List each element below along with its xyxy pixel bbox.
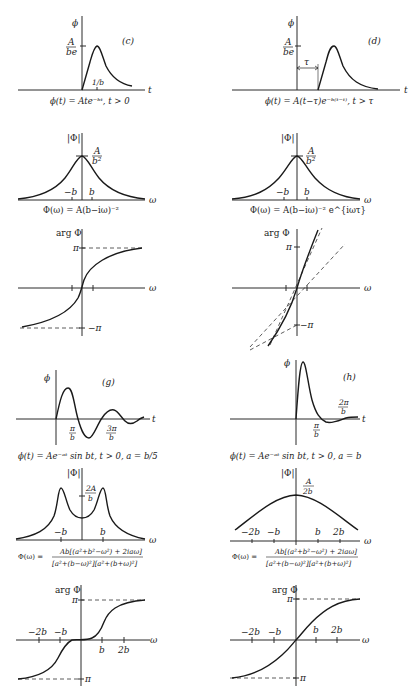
peak-label-den: b² <box>306 156 316 166</box>
caption: Φ(ω) = A(b−iω)⁻² <box>43 205 119 215</box>
y-axis-label: ϕ <box>44 373 50 383</box>
tick-b: b <box>315 527 321 537</box>
tick-label: 1/b <box>92 78 104 87</box>
x-axis-label: ω <box>364 195 372 205</box>
tick2-den: b <box>341 407 346 416</box>
mark-den: b <box>88 494 93 503</box>
tick1-num: π <box>313 421 320 430</box>
tick1-den: b <box>314 430 319 439</box>
caption: ϕ(t) = Ae⁻ᵃᵗ sin bt, t > 0, a = b/5 <box>18 451 158 461</box>
tick-neg-2b: −2b <box>28 627 47 637</box>
peak-label-num: A <box>67 37 75 47</box>
x-axis-label: ω <box>149 195 157 205</box>
tick-2b: 2b <box>330 625 343 635</box>
tick-neg-2b: −2b <box>241 627 260 637</box>
peak-label-num: A <box>307 146 315 156</box>
panel-c-phase: arg Φ ω π −π <box>18 228 157 336</box>
panel-tag: (c) <box>122 36 135 46</box>
pi-label: π <box>72 243 80 253</box>
peak-label-num: A <box>305 477 312 486</box>
peak-label-den: b² <box>92 156 102 166</box>
panel-tag: (d) <box>368 36 381 46</box>
x-axis-label: ω <box>364 536 372 546</box>
panel-tag: (h) <box>343 372 356 382</box>
tick-b: b <box>304 187 310 197</box>
panel-h-phase: arg Φ ω π π −2b −b b 2b <box>230 585 370 686</box>
tick-b: b <box>100 527 106 537</box>
panel-g-phase: arg Φ ω π π −2b −b b 2b <box>16 585 158 686</box>
peak-label-den: 2b <box>302 487 313 496</box>
y-axis-label: ϕ <box>72 18 78 28</box>
pi-label: π <box>286 594 294 604</box>
tick2-num: 3π <box>107 424 118 433</box>
neg-pi-label: π <box>299 673 307 683</box>
x-axis-label: ω <box>149 535 157 545</box>
figure-page: ϕ t A be (c) 1/b ϕ(t) = Ate⁻ᵇᵗ, t > 0 ϕ … <box>0 0 419 691</box>
y-axis-label: |Φ| <box>67 468 80 479</box>
caption: ϕ(t) = Ate⁻ᵇᵗ, t > 0 <box>50 96 130 106</box>
tick-neg-b: −b <box>276 187 290 197</box>
y-axis-label: arg Φ <box>272 585 298 595</box>
pi-label: π <box>285 242 293 252</box>
panel-h-time: ϕ t (h) π b 2π b ϕ(t) = Ae⁻ᵃᵗ sin bt, t … <box>230 358 366 461</box>
caption-lhs: Φ(ω) = <box>18 553 43 561</box>
peak-label-den: be <box>66 47 77 57</box>
peak-label-den: be <box>283 47 294 57</box>
x-axis-label: ω <box>150 635 158 645</box>
curve <box>318 46 378 90</box>
x-axis-label: t <box>362 414 366 424</box>
tick-2b: 2b <box>332 527 345 537</box>
tick-neg-b: −b <box>54 527 68 537</box>
delay-label: τ <box>304 57 310 67</box>
y-axis-label: arg Φ <box>264 228 290 238</box>
caption: Φ(ω) = A(b−iω)⁻² e^{iωτ} <box>250 205 366 215</box>
tick1-num: π <box>69 424 76 433</box>
x-axis-label: t <box>404 85 408 95</box>
mark-num: 2A <box>85 484 97 493</box>
tick-b: b <box>89 187 95 197</box>
caption: ϕ(t) = Ae⁻ᵃᵗ sin bt, t > 0, a = b <box>230 451 361 461</box>
x-axis-label: t <box>148 85 152 95</box>
tick-neg-b: −b <box>64 187 78 197</box>
y-axis-label: ϕ <box>288 18 294 28</box>
tick1-den: b <box>70 433 75 442</box>
neg-pi-label: π <box>84 674 92 684</box>
panel-d-phase: arg Φ ω π −π <box>232 228 372 350</box>
panel-tag: (g) <box>102 377 115 387</box>
x-axis-label: t <box>152 414 156 424</box>
pi-label: π <box>71 595 79 605</box>
tick-neg-b: −b <box>54 627 68 637</box>
y-axis-label: |Φ| <box>281 133 294 144</box>
tick-neg-b: −b <box>267 527 281 537</box>
caption-lhs: Φ(ω) = <box>232 553 257 561</box>
panel-d-magnitude: |Φ| ω A b² −b b Φ(ω) = A(b−iω)⁻² e^{iωτ} <box>232 133 372 215</box>
asymptote-upper <box>270 228 322 345</box>
x-axis-label: ω <box>149 283 157 293</box>
y-axis-label: ϕ <box>284 358 290 368</box>
tick2-den: b <box>109 433 114 442</box>
y-axis-label: |Φ| <box>281 468 294 479</box>
tick-neg-b: −b <box>268 627 282 637</box>
x-axis-label: ω <box>362 635 370 645</box>
peak-label-num: A <box>93 146 101 156</box>
neg-pi-label: −π <box>88 323 103 333</box>
panel-g-magnitude: |Φ| ω 2A b −b b Φ(ω) = Ab[(a²+b²−ω²) + 2… <box>16 468 157 568</box>
caption-denominator: [a²+(b−ω)²][a²+(b+ω)²] <box>266 560 352 568</box>
y-axis-label: arg Φ <box>56 228 82 238</box>
tick-b: b <box>99 645 105 655</box>
caption-denominator: [a²+(b−ω)²][a²+(b+ω)²] <box>52 560 138 568</box>
tick-2b: 2b <box>117 645 130 655</box>
tick2-num: 2π <box>338 398 350 407</box>
curve <box>82 46 132 90</box>
tick-neg-2b: −2b <box>241 527 260 537</box>
panel-c-time: ϕ t A be (c) 1/b ϕ(t) = Ate⁻ᵇᵗ, t > 0 <box>18 16 152 106</box>
caption-numerator: Ab[(a²+b²−ω²) + 2iaω] <box>274 548 357 556</box>
panel-h-magnitude: |Φ| ω A 2b −2b −b b 2b Φ(ω) = Ab[(a²+b²−… <box>230 468 372 568</box>
y-axis-label: |Φ| <box>67 133 80 144</box>
caption: ϕ(t) = A(t−τ)e⁻ᵇ⁽ᵗ⁻ᵗ⁾, t > τ <box>265 96 373 106</box>
panel-c-magnitude: |Φ| ω A b² −b b Φ(ω) = A(b−iω)⁻² <box>18 133 157 215</box>
y-axis-label: arg Φ <box>55 585 81 595</box>
panel-d-time: ϕ t A be (d) τ ϕ(t) = A(t−τ)e⁻ᵇ⁽ᵗ⁻ᵗ⁾, t … <box>232 16 408 106</box>
x-axis-label: ω <box>364 283 372 293</box>
caption-numerator: Ab[(a²+b²−ω²) + 2iaω] <box>59 548 142 556</box>
